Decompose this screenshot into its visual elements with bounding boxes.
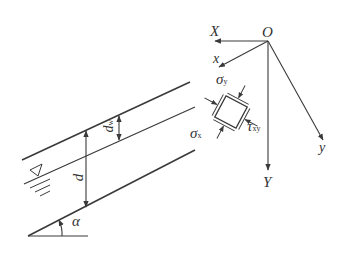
local-x-label: x	[213, 52, 219, 66]
stress-element	[190, 71, 271, 152]
sigma-x-arrow	[205, 98, 217, 105]
sigma-y-label: σy	[216, 72, 227, 87]
tau-xy-label: τxy	[247, 119, 260, 134]
origin-label: O	[262, 25, 273, 40]
coordinate-axes	[215, 41, 323, 170]
angle-alpha-label: α	[72, 214, 80, 229]
slope-lines	[22, 82, 195, 236]
global-y-label: Y	[263, 175, 271, 190]
sigma-x-label: σx	[190, 126, 201, 141]
sigma-y-arrow	[239, 86, 246, 98]
slip-surface-line	[28, 150, 195, 236]
global-x-label: X	[210, 24, 219, 39]
local-x-axis	[219, 41, 268, 67]
local-y-axis	[268, 41, 323, 140]
depth-d-label: d	[71, 174, 86, 182]
local-y-label: y	[319, 141, 325, 155]
depth-dw-label: dw	[102, 120, 116, 133]
diagram-canvas	[0, 0, 351, 264]
angle-arc	[59, 220, 62, 236]
sigma-y-arrow-bottom	[217, 126, 224, 138]
